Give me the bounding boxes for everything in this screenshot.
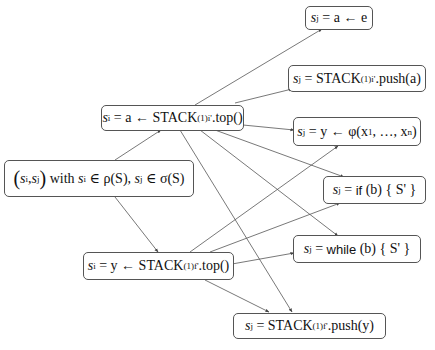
- expr: = STACK: [253, 318, 313, 334]
- expr: = y ← STACK: [96, 258, 184, 274]
- with-text: with: [46, 171, 78, 187]
- node-pair: ( si, sj ) with si ∈ ρ(S), sj ∈ σ(S): [4, 160, 194, 197]
- call: .top(): [212, 110, 243, 126]
- eq: =: [341, 182, 356, 198]
- edge-pair-top-i: [115, 130, 161, 160]
- expr: , …, x: [372, 124, 407, 140]
- node-assign: sj = a ← e: [305, 6, 373, 30]
- expr: (b) { S' }: [362, 182, 416, 198]
- sub: (1)f': [183, 261, 198, 271]
- node-phi: sj = y ← φ(x1, …, xn): [293, 117, 421, 146]
- node-while: sj = while (b) { S' }: [293, 235, 421, 263]
- node-push-a: sj = STACK(1)i'.push(a): [288, 65, 426, 92]
- call: .push(y): [328, 318, 374, 334]
- paren-open: (: [13, 167, 20, 190]
- sub: (1)i': [361, 74, 376, 84]
- node-top-f: si = y ← STACK(1)f'.top(): [83, 252, 234, 280]
- call: .top(): [199, 258, 230, 274]
- node-if: sj = if (b) { S' }: [323, 176, 426, 204]
- expr: = STACK: [301, 71, 361, 87]
- keyword: while: [327, 242, 357, 257]
- eq: =: [312, 241, 327, 257]
- edge-topf-while: [232, 253, 294, 264]
- paren-close: ): [40, 167, 47, 190]
- cond1: ∈ ρ(S),: [86, 170, 134, 187]
- node-top-i: si = a ← STACK(1)i'.top(): [101, 105, 244, 131]
- expr: = y ← φ(x: [305, 124, 368, 140]
- edge-topi-pusha: [235, 89, 292, 103]
- cond2: ∈ σ(S): [143, 170, 185, 187]
- node-push-y: sj = STACK(1)f'.push(y): [233, 313, 386, 339]
- edge-topi-phi: [243, 125, 294, 130]
- paren: ): [412, 124, 417, 140]
- edge-topf-pushy: [205, 280, 269, 312]
- call: .push(a): [375, 71, 421, 87]
- expr: = a ← STACK: [110, 110, 197, 126]
- sub: (1)i': [197, 113, 212, 123]
- sub: (1)f': [313, 321, 328, 331]
- edge-pair-top-f: [115, 197, 158, 252]
- expr: = a ← e: [319, 10, 367, 26]
- expr: (b) { S' }: [356, 241, 410, 257]
